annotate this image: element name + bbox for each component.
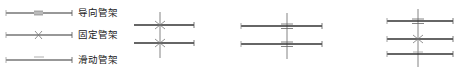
legend-sliding-support-icon [6,57,72,63]
diagram-three-pipes-mixed [387,9,453,67]
diagram-two-pipes-fixed [134,12,194,58]
legend-fixed-support-icon [6,31,72,39]
diagram-two-pipes-guide [241,13,322,59]
legend-guide-support-icon [6,10,72,16]
legend-label-guide-support: 导向管架 [78,8,118,18]
legend-label-fixed-support: 固定管架 [78,30,118,40]
legend-label-sliding-support: 滑动管架 [78,55,118,65]
pipe-support-diagram [0,0,459,76]
